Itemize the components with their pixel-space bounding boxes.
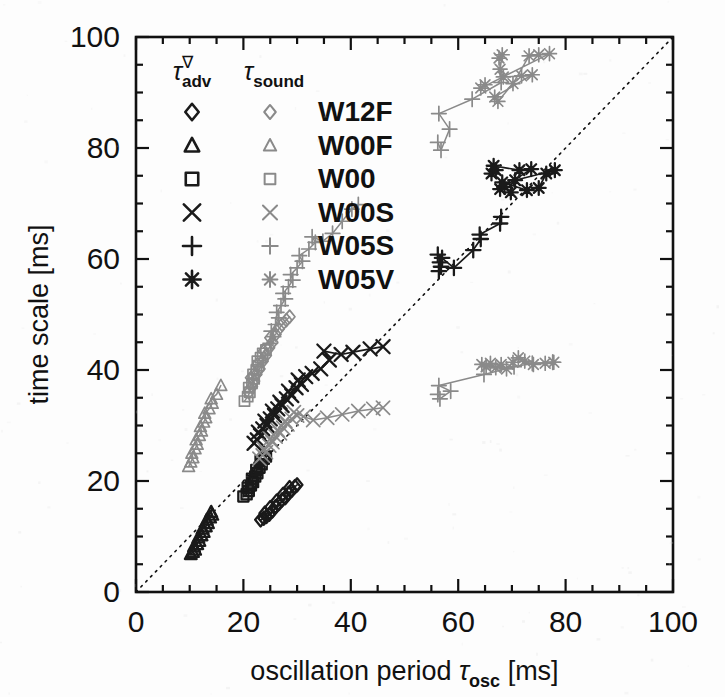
marker-triangle xyxy=(185,138,199,152)
legend: τ∇advτsoundW12FW00FW00W00SW05SW05V xyxy=(173,53,395,295)
marker-cross-x xyxy=(336,408,349,421)
marker-asterisk xyxy=(506,77,520,91)
marker-plus xyxy=(432,106,447,121)
x-axis-title-text: oscillation period τosc [ms] xyxy=(250,656,558,691)
x-tick-label: 100 xyxy=(648,605,698,638)
marker-square xyxy=(186,173,198,185)
y-tick-label: 100 xyxy=(70,20,120,53)
y-tick-label: 60 xyxy=(87,242,120,275)
legend-row-w12f[interactable]: W12F xyxy=(185,96,392,127)
series-w00f-tau_sound xyxy=(183,379,227,471)
marker-plus xyxy=(494,210,509,225)
series-w05v-low-tau_sound xyxy=(475,351,561,376)
legend-row-w00s[interactable]: W00S xyxy=(184,197,394,228)
series-w05v-tau_adv xyxy=(485,159,562,200)
marker-asterisk xyxy=(525,68,539,82)
marker-asterisk xyxy=(504,185,518,199)
marker-asterisk xyxy=(496,70,510,84)
series-w00f-tau_adv xyxy=(185,506,218,559)
scatter-plot: 020406080100020406080100oscillation peri… xyxy=(0,0,725,697)
marker-diamond xyxy=(264,105,276,119)
y-tick-label: 80 xyxy=(87,131,120,164)
series-w12f-tau_adv xyxy=(255,478,302,526)
x-tick-label: 20 xyxy=(227,605,260,638)
series-w00s-tau_adv xyxy=(248,340,390,450)
marker-triangle xyxy=(264,139,276,151)
marker-asterisk xyxy=(548,163,562,177)
marker-plus xyxy=(434,143,449,158)
y-tick-label: 0 xyxy=(103,575,120,608)
marker-asterisk xyxy=(183,271,200,288)
marker-asterisk xyxy=(532,48,546,62)
legend-label-w05v: W05V xyxy=(318,264,395,295)
marker-plus xyxy=(465,92,480,107)
marker-asterisk xyxy=(263,272,278,287)
legend-label-w12f: W12F xyxy=(318,96,393,127)
marker-asterisk xyxy=(520,183,534,197)
marker-asterisk xyxy=(526,358,540,372)
marker-asterisk xyxy=(491,94,505,108)
y-tick-label: 40 xyxy=(87,353,120,386)
series-w05v-tau_sound xyxy=(474,47,557,109)
x-tick-label: 80 xyxy=(549,605,582,638)
x-axis-title: oscillation period τosc [ms] xyxy=(250,656,558,691)
series-line xyxy=(438,83,501,151)
marker-asterisk xyxy=(524,162,538,176)
x-tick-label: 40 xyxy=(334,605,367,638)
figure-root: 020406080100020406080100oscillation peri… xyxy=(0,0,725,697)
marker-square xyxy=(265,174,276,185)
marker-plus xyxy=(262,238,278,254)
legend-label-w00s: W00S xyxy=(318,197,394,228)
marker-asterisk xyxy=(543,47,557,61)
legend-label-w00f: W00F xyxy=(318,130,393,161)
x-tick-label: 60 xyxy=(442,605,475,638)
marker-cross-x xyxy=(263,205,277,219)
legend-row-w05s[interactable]: W05S xyxy=(183,230,394,261)
marker-cross-x xyxy=(184,204,200,220)
marker-plus xyxy=(183,237,201,255)
legend-label-w05s: W05S xyxy=(318,230,394,261)
marker-diamond xyxy=(185,104,198,120)
y-axis-title: time scale [ms] xyxy=(24,224,54,404)
legend-header-tau-adv: τ∇adv xyxy=(173,53,212,91)
marker-asterisk xyxy=(532,181,546,195)
marker-asterisk xyxy=(547,355,561,369)
series-w05s-high-tau_sound xyxy=(431,75,509,157)
marker-asterisk xyxy=(495,48,509,62)
reference-identity-line xyxy=(136,37,673,592)
series-w00-tau_sound xyxy=(239,345,271,406)
marker-cross-x xyxy=(307,413,320,426)
marker-asterisk xyxy=(487,159,501,173)
legend-label-w00: W00 xyxy=(318,163,376,194)
marker-asterisk xyxy=(478,78,492,92)
marker-plus xyxy=(442,122,457,137)
legend-row-w00[interactable]: W00 xyxy=(186,163,376,194)
legend-row-w00f[interactable]: W00F xyxy=(185,130,393,161)
y-tick-label: 20 xyxy=(87,464,120,497)
x-tick-label: 0 xyxy=(128,605,145,638)
legend-header-tau-sound: τsound xyxy=(244,57,304,91)
